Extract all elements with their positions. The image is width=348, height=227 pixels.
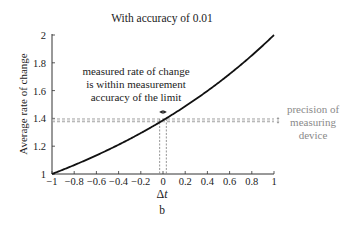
x-tick-label: 0.8	[245, 176, 258, 187]
x-tick-label: 1	[271, 176, 276, 187]
x-tick-label: −1	[46, 176, 57, 187]
accuracy-interval	[160, 119, 167, 174]
subfigure-label: b	[159, 204, 165, 216]
double-arrow-icon	[160, 110, 167, 114]
precision-bracket-icon	[277, 117, 280, 124]
x-tick-label: 0.4	[201, 176, 215, 187]
y-axis-label: Average rate of change	[17, 53, 29, 155]
y-tick-label: 1	[41, 169, 46, 180]
rate-of-change-curve	[52, 35, 274, 174]
x-tick-label: −0.6	[87, 176, 106, 187]
x-tick-label: −0.4	[109, 176, 129, 187]
annotation-precision: precision ofmeasuringdevice	[287, 103, 340, 141]
y-tick-label: 1.8	[33, 58, 46, 69]
x-tick-label: 0.6	[223, 176, 236, 187]
x-tick-label: −0.8	[65, 176, 84, 187]
y-tick-label: 1.4	[33, 113, 47, 124]
chart: With accuracy of 0.01 −1−0.8−0.6−0.4−0.2…	[0, 0, 348, 227]
y-tick-label: 1.6	[33, 86, 46, 97]
y-tick-label: 2	[41, 30, 46, 41]
x-axis-label: Δt	[156, 187, 168, 201]
x-tick-label: 0	[160, 176, 165, 187]
x-tick-label: 0.2	[179, 176, 192, 187]
y-tick-label: 1.2	[33, 141, 46, 152]
chart-title: With accuracy of 0.01	[111, 12, 213, 25]
x-tick-label: −0.2	[131, 176, 150, 187]
annotation-accuracy: measured rate of changeis within measure…	[82, 65, 189, 103]
x-axis-ticks: −1−0.8−0.6−0.4−0.200.20.40.60.81	[46, 171, 276, 187]
axes	[52, 34, 274, 174]
